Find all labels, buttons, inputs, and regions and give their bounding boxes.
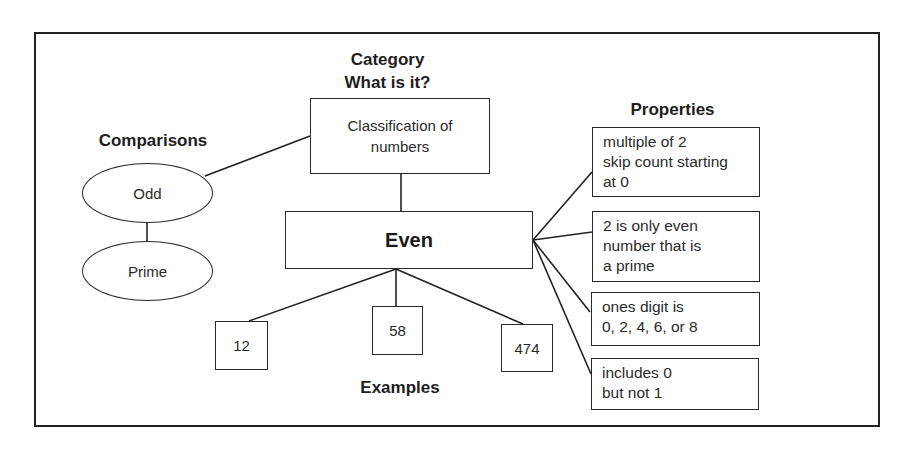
property-4-line1: includes 0 [602, 363, 672, 383]
center-concept-even: Even [285, 211, 533, 269]
property-3-line1: ones digit is [602, 297, 698, 317]
property-box-1: multiple of 2 skip count starting at 0 [592, 127, 760, 197]
examples-heading: Examples [350, 376, 450, 399]
example-box-58: 58 [372, 306, 423, 355]
category-box-line1: Classification of [347, 115, 452, 136]
comparison-odd: Odd [82, 163, 213, 223]
properties-heading: Properties [620, 98, 725, 121]
property-4-line2: but not 1 [602, 383, 672, 403]
property-1-line1: multiple of 2 [603, 132, 728, 152]
property-1-line2: skip count starting [603, 152, 728, 172]
category-box-line2: numbers [371, 136, 429, 157]
category-heading: Category What is it? [330, 48, 445, 94]
property-2-line3: a prime [603, 256, 701, 276]
comparisons-heading: Comparisons [88, 129, 218, 152]
property-box-3: ones digit is 0, 2, 4, 6, or 8 [591, 292, 760, 346]
property-3-line2: 0, 2, 4, 6, or 8 [602, 317, 698, 337]
connector-odd-category [205, 136, 310, 176]
category-heading-line1: Category [330, 48, 445, 71]
property-box-4: includes 0 but not 1 [591, 358, 759, 410]
connector-even-prop3 [533, 240, 590, 312]
category-heading-line2: What is it? [330, 71, 445, 94]
comparison-prime: Prime [82, 241, 213, 301]
example-box-12: 12 [215, 321, 268, 370]
property-2-line1: 2 is only even [603, 216, 701, 236]
example-box-474: 474 [501, 324, 553, 372]
connector-even-prop2 [533, 232, 592, 240]
connector-even-prop1 [533, 172, 592, 240]
category-box: Classification of numbers [310, 98, 490, 174]
property-2-line2: number that is [603, 236, 701, 256]
property-1-line3: at 0 [603, 172, 728, 192]
property-box-2: 2 is only even number that is a prime [592, 211, 760, 282]
